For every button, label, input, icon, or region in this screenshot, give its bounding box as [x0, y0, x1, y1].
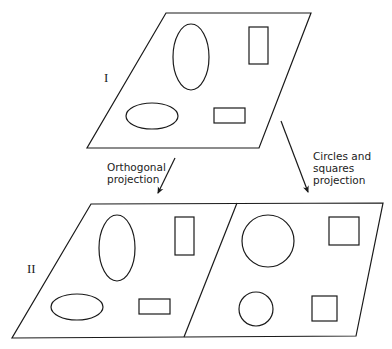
bottom-large-square — [329, 217, 359, 245]
bottom-small-circle — [239, 292, 273, 326]
top-horizontal-rectangle — [214, 108, 245, 123]
bottom-divider — [184, 203, 237, 337]
bottom-horizontal-rectangle — [139, 299, 170, 314]
arrow-left-label-line1: Orthogonal — [107, 161, 166, 173]
bottom-plane — [12, 203, 383, 338]
panel-top-label: I — [104, 70, 108, 85]
panel-bottom-label: II — [27, 261, 36, 276]
top-vertical-rectangle — [249, 27, 268, 64]
arrow-left-label-line2: projection — [107, 173, 159, 185]
arrow-right-label-line2: squares — [313, 162, 354, 174]
arrow-orthogonal: Orthogonal projection — [107, 158, 175, 193]
panel-top: I — [87, 13, 311, 148]
top-horizontal-ellipse — [126, 103, 178, 129]
bottom-small-square — [312, 296, 337, 321]
bottom-vertical-ellipse — [99, 215, 135, 281]
arrow-right-label-line1: Circles and — [313, 150, 371, 162]
panel-bottom: II — [12, 203, 383, 338]
bottom-large-circle — [242, 215, 294, 267]
top-vertical-ellipse — [173, 24, 209, 90]
arrow-circles-squares: Circles and squares projection — [281, 121, 371, 192]
bottom-vertical-rectangle — [175, 217, 194, 255]
bottom-horizontal-ellipse — [51, 294, 103, 320]
projection-diagram: I Orthogonal projection Circles and squa… — [0, 0, 392, 349]
arrow-right-label-line3: projection — [313, 174, 365, 186]
top-plane — [87, 13, 311, 148]
arrow-right-icon — [281, 121, 308, 192]
